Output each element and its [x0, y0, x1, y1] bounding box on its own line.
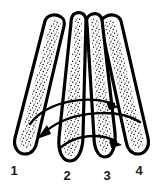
finger-diagram-figure: 1 2 3 4	[0, 0, 162, 193]
finger-label-4: 4	[131, 164, 147, 177]
finger-label-2: 2	[59, 169, 75, 182]
finger-label-1: 1	[6, 164, 22, 177]
finger-1-shape	[15, 15, 65, 154]
finger-label-3: 3	[99, 169, 115, 182]
